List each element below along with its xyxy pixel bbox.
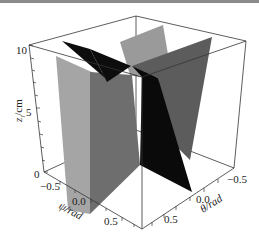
- theta-tick-neg05: −0.5: [227, 173, 247, 185]
- svg-text:zi/cm: zi/cm: [12, 99, 27, 123]
- psi-tick-neg05: −0.5: [40, 180, 60, 192]
- psi-tick-05: 0.5: [104, 215, 118, 227]
- plane-mid-gray: [90, 72, 140, 214]
- z-tick-10: 10: [16, 44, 28, 56]
- z-axis-label-unit: /cm: [12, 99, 24, 116]
- plot-3d: 10 5 0 zi/cm −0.5 0.0 0.5 ψ/rad −0.5 0.0…: [0, 0, 259, 244]
- theta-tick-05: 0.5: [164, 213, 178, 225]
- z-axis-ticks: [29, 45, 48, 172]
- surfaces: [56, 25, 212, 214]
- z-tick-0: 0: [34, 168, 40, 180]
- z-axis-label: zi/cm: [12, 99, 27, 123]
